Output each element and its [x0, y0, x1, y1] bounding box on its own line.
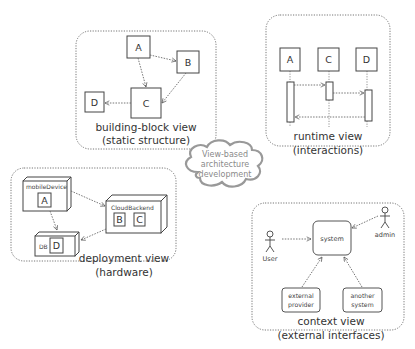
rt-participant-c-label: C — [325, 54, 332, 65]
db-component-d-label: D — [53, 240, 60, 251]
db-node-label: DB — [39, 243, 48, 250]
context-edge-provider-system — [302, 257, 322, 287]
another-system-line-1: another — [350, 292, 375, 299]
actor-admin: admin — [375, 207, 395, 239]
deploy-edge-cloud-db — [81, 229, 106, 240]
bb-box-c: C — [131, 88, 161, 118]
deployment-view-subtitle: (hardware) — [95, 266, 153, 278]
context-view-title: context view — [297, 315, 365, 327]
external-provider-line-2: provider — [288, 301, 314, 309]
architecture-views-diagram: A B C D building-block view (static stru… — [0, 0, 415, 349]
cloudbackend-component-b-label: B — [116, 214, 123, 225]
bb-box-a: A — [127, 36, 150, 58]
rt-participant-a-label: A — [287, 54, 294, 65]
bb-box-b-label: B — [185, 57, 192, 68]
deploy-node-mobiledevice: mobileDevice A — [23, 177, 71, 211]
rt-participant-c: C — [318, 48, 339, 71]
cloudbackend-node-label: CloudBackend — [111, 204, 154, 211]
context-system-label: system — [320, 235, 344, 243]
context-another-system: another system — [343, 288, 382, 312]
mobiledevice-node-label: mobileDevice — [26, 183, 67, 190]
rt-activation-a — [287, 82, 294, 122]
deployment-view-title: deployment view — [79, 252, 170, 264]
cloud-line-2: architecture — [201, 160, 249, 169]
bb-box-a-label: A — [135, 42, 142, 53]
bb-box-d-label: D — [91, 97, 98, 108]
actor-user: User — [263, 231, 278, 263]
deploy-node-cloudbackend: CloudBackend B C — [106, 195, 167, 233]
rt-participant-d: D — [356, 48, 377, 71]
bb-box-b: B — [177, 51, 199, 73]
rt-activation-c — [326, 82, 333, 100]
building-block-view-title: building-block view — [95, 121, 197, 133]
another-system-line-2: system — [351, 301, 373, 309]
runtime-view-frame — [266, 15, 390, 146]
admin-stick-figure-icon — [380, 207, 390, 228]
context-view-subtitle: (external interfaces) — [277, 329, 384, 341]
center-cloud: View-based architecture development — [186, 140, 262, 186]
bb-box-c-label: C — [143, 98, 150, 109]
deployment-view-panel: mobileDevice A CloudBackend B C DB D — [11, 168, 176, 278]
actor-user-label: User — [263, 255, 278, 263]
rt-participant-d-label: D — [363, 54, 370, 65]
actor-admin-label: admin — [375, 231, 395, 239]
context-external-provider: external provider — [282, 288, 320, 312]
bb-edge-a-b — [150, 55, 176, 61]
context-edge-another-system — [344, 257, 362, 287]
deploy-edge-mobile-db — [50, 211, 57, 230]
external-provider-line-1: external — [288, 292, 314, 299]
rt-participant-a: A — [280, 48, 300, 71]
building-block-view-subtitle: (static structure) — [102, 134, 190, 146]
cloudbackend-component-c-label: C — [136, 214, 143, 225]
bb-edge-a-c — [138, 58, 146, 87]
bb-box-d: D — [85, 92, 104, 112]
cloud-line-1: View-based — [202, 150, 248, 159]
runtime-view-subtitle: (interactions) — [293, 144, 363, 156]
context-view-panel: system User admin — [252, 203, 404, 341]
rt-activation-d — [365, 90, 372, 121]
deploy-edge-mobile-cloud — [71, 191, 105, 206]
deploy-node-db: DB D — [35, 232, 79, 256]
building-block-view-panel: A B C D building-block view (static stru… — [76, 31, 216, 149]
runtime-view-title: runtime view — [294, 130, 363, 142]
runtime-view-panel: A C D runtime view (interactions) — [266, 15, 390, 156]
mobiledevice-component-a-label: A — [41, 195, 48, 206]
bb-edge-b-c — [162, 73, 186, 103]
user-stick-figure-icon — [265, 231, 275, 252]
cloud-line-3: development — [199, 170, 252, 179]
context-edge-admin-system — [352, 216, 378, 228]
context-system-box: system — [313, 221, 351, 255]
